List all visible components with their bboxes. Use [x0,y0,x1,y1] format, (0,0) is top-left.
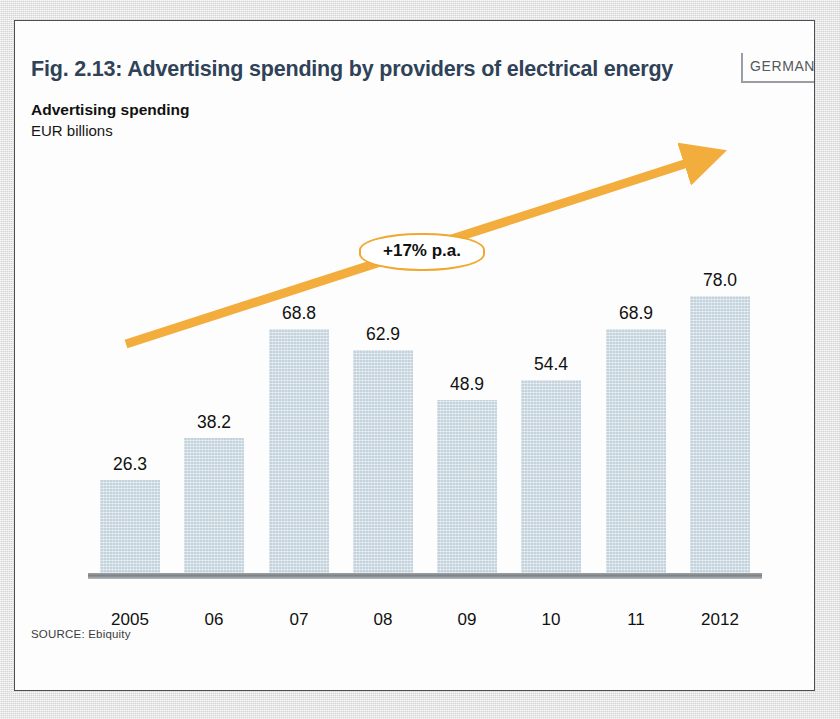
bar-value-label: 78.0 [670,270,770,291]
bar-06 [184,438,244,573]
bar-value-label: 68.9 [586,303,686,324]
bar-07 [269,329,329,573]
bar-08 [353,350,413,573]
x-tick-2012: 2012 [670,610,770,630]
growth-rate-callout: +17% p.a. [359,233,485,271]
bar-11 [606,329,666,573]
x-axis-line [88,573,762,579]
bar-value-label: 26.3 [80,454,180,475]
bar-2005 [100,480,160,573]
bar-value-label: 38.2 [164,412,264,433]
bar-10 [521,380,581,573]
bar-2012 [690,296,750,573]
bar-09 [437,400,497,573]
source-note: SOURCE: Ebiquity [31,628,131,640]
bar-value-label: 54.4 [501,354,601,375]
bar-value-label: 68.8 [249,303,349,324]
bar-value-label: 62.9 [333,324,433,345]
chart-plot-area: +17% p.a. 26.338.268.862.948.954.468.978… [15,21,814,690]
slide-card: Fig. 2.13: Advertising spending by provi… [14,20,815,691]
bar-value-label: 48.9 [417,374,517,395]
